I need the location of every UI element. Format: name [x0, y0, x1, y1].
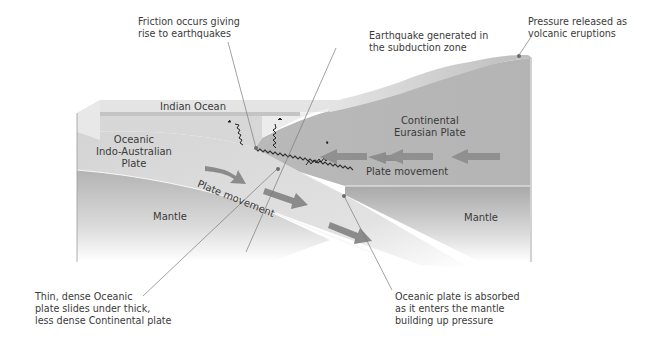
label-mantle-left: Mantle [153, 211, 187, 223]
callout-earthquake-line-1: Earthquake generated in [369, 30, 488, 42]
label-continental-plate: Continental Eurasian Plate [394, 115, 466, 139]
callout-friction: Friction occurs giving rise to earthquak… [138, 16, 240, 40]
label-continental-plate-line-1: Continental [394, 115, 466, 127]
callout-thin-dense-line-3: less dense Continental plate [35, 315, 171, 327]
callout-absorbed: Oceanic plate is absorbed as it enters t… [395, 291, 520, 327]
callout-friction-line-2: rise to earthquakes [138, 28, 240, 40]
label-oceanic-plate-line-1: Oceanic [96, 134, 172, 146]
callout-pressure-line-1: Pressure released as [528, 16, 627, 28]
callout-earthquake-line-2: the subduction zone [369, 42, 488, 54]
callout-absorbed-line-1: Oceanic plate is absorbed [395, 291, 520, 303]
callout-dot-absorbed [342, 194, 346, 198]
callout-friction-line-1: Friction occurs giving [138, 16, 240, 28]
callout-pressure-line-2: volcanic eruptions [528, 28, 627, 40]
callout-dot-thin-dense [276, 167, 280, 171]
label-mantle-right: Mantle [464, 212, 498, 224]
label-oceanic-plate: Oceanic Indo-Australian Plate [96, 134, 172, 170]
subduction-diagram: Indian Ocean Oceanic Indo-Australian Pla… [0, 0, 659, 346]
callout-absorbed-line-3: building up pressure [395, 315, 520, 327]
callout-absorbed-line-2: as it enters the mantle [395, 303, 520, 315]
callout-thin-dense-line-2: plate slides under thick, [35, 303, 171, 315]
label-continental-plate-line-2: Eurasian Plate [394, 127, 466, 139]
callout-thin-dense: Thin, dense Oceanic plate slides under t… [35, 291, 171, 327]
label-indian-ocean: Indian Ocean [160, 101, 226, 113]
label-plate-movement-continental: Plate movement [366, 166, 448, 178]
callout-dot-friction [254, 146, 258, 150]
label-oceanic-plate-line-3: Plate [96, 158, 172, 170]
callout-thin-dense-line-1: Thin, dense Oceanic [35, 291, 171, 303]
callout-pressure: Pressure released as volcanic eruptions [528, 16, 627, 40]
label-oceanic-plate-line-2: Indo-Australian [96, 146, 172, 158]
callout-earthquake: Earthquake generated in the subduction z… [369, 30, 488, 54]
